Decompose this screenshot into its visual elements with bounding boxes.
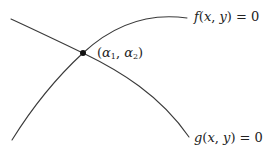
comma: ,: [211, 9, 219, 24]
curve-f-label: f(x, y) = 0: [194, 10, 259, 23]
var-y: y: [220, 9, 227, 24]
comma: ,: [215, 130, 223, 145]
curve-g-label: g(x, y) = 0: [194, 131, 263, 144]
curve-g: [11, 19, 189, 137]
intersection-point: [80, 50, 86, 56]
comma: ,: [116, 45, 124, 60]
equals-zero: = 0: [232, 9, 259, 24]
equals-zero: = 0: [235, 130, 262, 145]
intersection-label: (α1, α2): [97, 46, 143, 61]
alpha-2: α: [124, 45, 133, 60]
var-x: x: [207, 130, 214, 145]
alpha-1: α: [102, 45, 111, 60]
paren-close: ): [138, 45, 143, 60]
curve-f: [12, 17, 187, 140]
